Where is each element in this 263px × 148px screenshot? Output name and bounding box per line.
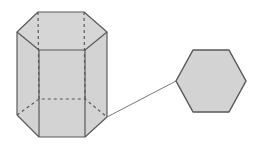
diagram-canvas xyxy=(0,0,263,148)
cross-section-hexagon xyxy=(176,50,246,112)
hexagonal-prism xyxy=(17,12,107,137)
connector-line xyxy=(107,81,176,117)
